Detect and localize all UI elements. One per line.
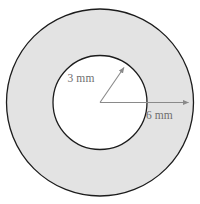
- figure-canvas: 3 mm 6 mm: [0, 0, 200, 204]
- annulus-diagram: 3 mm 6 mm: [0, 0, 200, 204]
- outer-radius-label: 6 mm: [146, 109, 173, 121]
- inner-radius-label: 3 mm: [68, 72, 95, 84]
